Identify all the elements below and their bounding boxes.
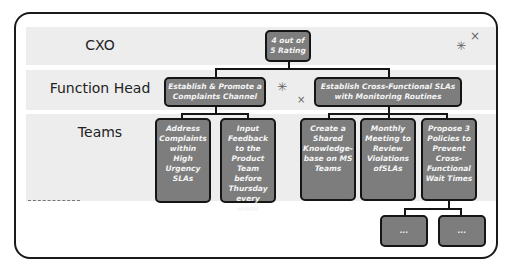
connector <box>215 68 390 70</box>
sparkle-icon: ✳ <box>456 40 466 52</box>
node-child-1[interactable]: ... <box>380 215 428 247</box>
row-label-cxo: CXO <box>60 37 140 53</box>
node-rating[interactable]: 4 out of 5 Rating <box>265 30 311 62</box>
node-cross-functional-slas[interactable]: Establish Cross-Functional SLAs with Mon… <box>314 77 462 107</box>
node-complaints-channel[interactable]: Establish & Promote a Complaints Channel <box>164 77 266 107</box>
sparkle-icon: ✳ <box>277 81 287 93</box>
node-monthly-meeting[interactable]: Monthly Meeting to Review Violations ofS… <box>360 118 416 201</box>
connector <box>404 208 406 215</box>
node-knowledge-base[interactable]: Create a Shared Knowledge-base on MS Tea… <box>300 118 356 201</box>
connector <box>404 208 462 210</box>
connector <box>181 113 249 115</box>
node-address-complaints[interactable]: Address Complaints within High Urgency S… <box>155 118 211 203</box>
cross-icon: × <box>297 94 305 106</box>
dashed-mark <box>28 200 80 202</box>
node-child-2[interactable]: ... <box>438 215 486 247</box>
row-label-teams: Teams <box>60 124 140 140</box>
cross-icon: × <box>470 30 480 42</box>
connector <box>460 208 462 215</box>
node-input-feedback[interactable]: Input Feedback to the Product Team befor… <box>220 118 276 203</box>
node-propose-policies[interactable]: Propose 3 Policies to Prevent Cross-Func… <box>421 118 477 201</box>
row-label-function-head: Function Head <box>40 80 160 96</box>
